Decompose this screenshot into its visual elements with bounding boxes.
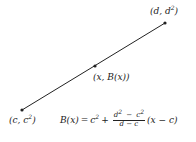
formula-plus: + <box>101 115 109 125</box>
label-end-point: (d, d2) <box>150 7 178 16</box>
point-x <box>93 64 96 67</box>
fraction-denominator: d − c <box>120 121 139 129</box>
formula-equals: = <box>81 115 89 125</box>
formula-lhs: B(x) <box>60 115 79 125</box>
formula-term1: c2 <box>90 115 99 125</box>
label-mid-point: (x, B(x)) <box>93 73 130 82</box>
interpolation-formula: B(x) = c2 + d2 − c2 d − c (x − c) <box>60 112 178 129</box>
formula-fraction: d2 − c2 d − c <box>113 112 145 129</box>
label-start-point: (c, c2) <box>9 116 36 125</box>
point-d <box>163 21 166 24</box>
formula-tail: (x − c) <box>147 115 177 125</box>
point-c <box>20 108 23 111</box>
